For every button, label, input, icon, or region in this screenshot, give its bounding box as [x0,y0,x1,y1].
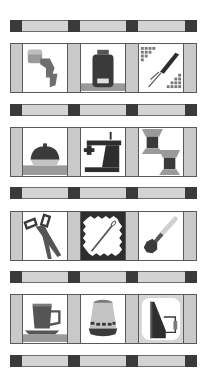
cornerstone [185,271,197,283]
jar-icon [81,44,125,92]
cornerstone [68,187,80,199]
sashing-strip-1 [10,20,197,32]
panel-thimble [80,295,126,343]
panel-thread-spool [22,44,68,92]
cornerstone [68,355,80,367]
block-row-4 [10,294,197,344]
cornerstone [10,355,22,367]
panel-sewing-machine [80,128,126,176]
block-row-1 [10,43,197,93]
sewing-machine-icon [81,128,125,176]
panel-seam-ripper [138,44,184,92]
cornerstone [126,271,138,283]
cornerstone [68,20,80,32]
cornerstone [126,20,138,32]
thread-spool-with-zigzag-icon [23,44,67,92]
sashing-strip-2 [10,104,197,116]
cornerstone [126,355,138,367]
panel-scissors [22,212,68,260]
thread-spools-icon [139,128,183,176]
thimble-icon [81,295,125,343]
panel-pin [138,212,184,260]
sashing-strip-3 [10,187,197,199]
sashing-strip-4 [10,271,197,283]
panel-needle [80,212,126,260]
cornerstone [10,187,22,199]
cornerstone [126,187,138,199]
block-row-3 [10,211,197,261]
iron-icon [139,295,183,343]
cornerstone [185,355,197,367]
cornerstone [10,271,22,283]
panel-teacup [22,295,68,343]
cornerstone [10,20,22,32]
sashing-strip-5 [10,355,197,367]
cornerstone [68,271,80,283]
panel-pincushion [22,128,68,176]
panel-iron [138,295,184,343]
seam-ripper-icon [139,44,183,92]
cornerstone [185,187,197,199]
block-row-2 [10,127,197,177]
needle-on-pinked-fabric-icon [81,212,125,260]
cornerstone [185,20,197,32]
pin-icon [139,212,183,260]
panel-jar [80,44,126,92]
cornerstone [185,104,197,116]
cornerstone [126,104,138,116]
cornerstone [68,104,80,116]
panel-thread-spools [138,128,184,176]
teacup-icon [23,295,67,343]
pincushion-icon [23,128,67,176]
scissors-icon [23,212,67,260]
cornerstone [10,104,22,116]
